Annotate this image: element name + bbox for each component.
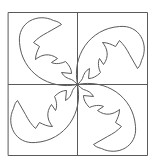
blade-top-left <box>19 18 77 86</box>
blade-bottom-right <box>78 83 136 151</box>
blade-bottom-left <box>11 85 79 143</box>
blade-top-right <box>76 26 144 84</box>
pinwheel-diagram: Square tile divided into four quadrants … <box>0 0 154 161</box>
pinwheel-svg <box>0 0 154 161</box>
